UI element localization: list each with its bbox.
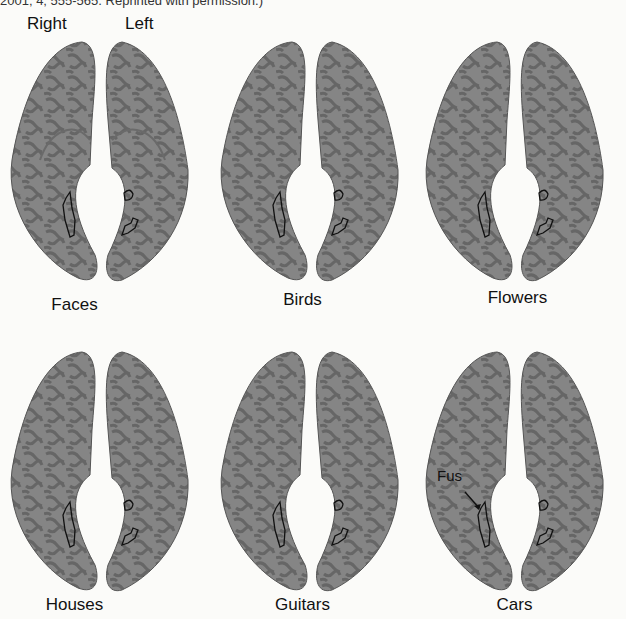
- brain-image: [210, 340, 415, 600]
- condition-label: Flowers: [415, 288, 620, 308]
- citation-fragment: 2001; 4; 555-565. Reprinted with permiss…: [0, 0, 263, 8]
- brain-panel-faces: Faces: [0, 30, 205, 330]
- fus-annotation: Fus: [437, 467, 462, 484]
- brain-image: [415, 30, 620, 290]
- brain-panel-houses: Houses: [0, 340, 205, 619]
- brain-image: [0, 340, 205, 600]
- condition-label: Guitars: [200, 595, 405, 615]
- brain-panel-flowers: Flowers: [415, 30, 620, 330]
- condition-label: Houses: [0, 595, 177, 615]
- brain-image: [210, 30, 415, 290]
- condition-label: Faces: [0, 295, 177, 315]
- brain-panel-birds: Birds: [210, 30, 415, 330]
- brain-panel-guitars: Guitars: [210, 340, 415, 619]
- condition-label: Cars: [412, 595, 617, 615]
- brain-image: [0, 30, 205, 290]
- brain-panel-cars: Fus Cars: [415, 340, 620, 619]
- condition-label: Birds: [200, 290, 405, 310]
